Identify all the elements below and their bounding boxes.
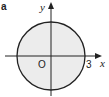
- part-label: a: [1, 1, 7, 12]
- x-axis-label: x: [99, 57, 105, 69]
- radius-label: 3: [86, 59, 92, 70]
- origin-label: O: [38, 59, 46, 70]
- y-axis-label: y: [39, 1, 45, 13]
- y-axis-arrow-icon: [48, 2, 54, 9]
- circle-diagram: a y x O 3: [0, 0, 109, 97]
